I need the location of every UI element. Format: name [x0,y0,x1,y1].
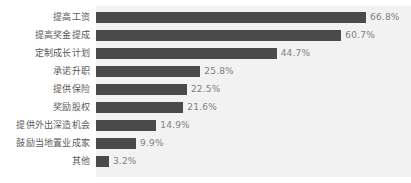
category-label: 鼓励当地置业成家 [0,138,90,149]
bar [96,30,341,41]
bar [96,138,136,149]
bar-track: 66.8% [96,8,411,26]
bar [96,156,109,167]
bar-row: 提高奖金提成60.7% [0,26,411,44]
bar-rows: 提高工资66.8%提高奖金提成60.7%定制成长计划44.7%承诺升职25.8%… [0,0,411,183]
bar-value-label: 22.5% [191,84,221,95]
bar-track: 21.6% [96,98,411,116]
bar-value-label: 25.8% [204,66,234,77]
bar-row: 定制成长计划44.7% [0,44,411,62]
bar-value-label: 3.2% [113,156,137,167]
category-label: 奖励股权 [0,102,90,113]
category-label: 提供外出深造机会 [0,120,90,131]
bar-row: 奖励股权21.6% [0,98,411,116]
bar-value-label: 66.8% [370,12,400,23]
bar [96,102,183,113]
bar [96,12,366,23]
category-label: 提供保险 [0,84,90,95]
category-label: 承诺升职 [0,66,90,77]
category-label: 提高工资 [0,12,90,23]
bar-row: 提供保险22.5% [0,80,411,98]
bar-track: 25.8% [96,62,411,80]
bar-row: 提供外出深造机会14.9% [0,116,411,134]
bar-value-label: 60.7% [345,30,375,41]
bar-value-label: 21.6% [187,102,217,113]
bar-track: 9.9% [96,134,411,152]
bar-track: 44.7% [96,44,411,62]
bar-row: 其他3.2% [0,152,411,170]
bar-chart: 提高工资66.8%提高奖金提成60.7%定制成长计划44.7%承诺升职25.8%… [0,0,411,183]
bar-track: 14.9% [96,116,411,134]
bar-value-label: 9.9% [140,138,164,149]
bar-row: 鼓励当地置业成家9.9% [0,134,411,152]
bar-value-label: 44.7% [281,48,311,59]
bar-row: 提高工资66.8% [0,8,411,26]
bar [96,66,200,77]
bar [96,84,187,95]
bar-track: 3.2% [96,152,411,170]
category-label: 提高奖金提成 [0,30,90,41]
bar [96,120,156,131]
bar-track: 60.7% [96,26,411,44]
bar [96,48,277,59]
category-label: 其他 [0,156,90,167]
bar-row: 承诺升职25.8% [0,62,411,80]
bar-value-label: 14.9% [160,120,190,131]
category-label: 定制成长计划 [0,48,90,59]
bar-track: 22.5% [96,80,411,98]
